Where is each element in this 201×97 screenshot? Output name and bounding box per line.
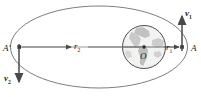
orbital-diagram-figure: A A' r1 r2 O v1 v2 <box>0 0 201 97</box>
label-center-O: O <box>140 52 147 61</box>
label-radius-far-r2: r2 <box>74 42 80 53</box>
label-apoapsis-A-prime: A' <box>3 44 10 53</box>
label-radius-near-r1: r1 <box>166 43 172 54</box>
label-periapsis-A: A <box>191 44 197 53</box>
label-velocity-far-v2: v2 <box>4 74 11 85</box>
label-velocity-near-v1: v1 <box>185 9 192 20</box>
focus-center-dot <box>142 45 145 48</box>
